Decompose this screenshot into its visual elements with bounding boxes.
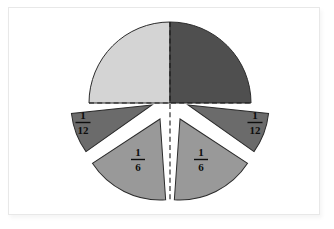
figure-root: 1 12 1 12 1 6 1 6 <box>0 0 334 229</box>
label-twelfth-right-numerator: 1 <box>252 109 258 121</box>
piece-quarter-top-right <box>170 22 251 103</box>
label-sixth-left-denominator: 6 <box>135 161 141 173</box>
label-twelfth-left-numerator: 1 <box>80 109 86 121</box>
label-sixth-right-denominator: 6 <box>198 161 204 173</box>
fraction-circle-diagram: 1 12 1 12 1 6 1 6 <box>0 0 334 229</box>
label-sixth-right-numerator: 1 <box>198 146 204 158</box>
label-twelfth-left-denominator: 12 <box>78 124 90 136</box>
label-sixth-left-numerator: 1 <box>135 146 141 158</box>
label-twelfth-right-denominator: 12 <box>250 124 262 136</box>
piece-quarter-top-left <box>89 22 170 103</box>
